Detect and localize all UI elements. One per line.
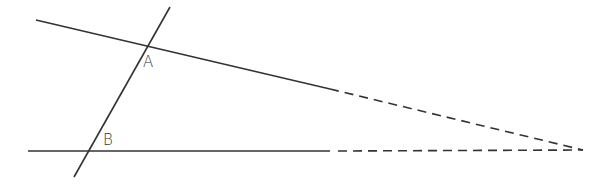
top-line-dashed-extension bbox=[330, 89, 583, 150]
bottom-line-dashed-extension bbox=[338, 150, 583, 151]
point-label-b: B bbox=[103, 131, 113, 149]
top-line-solid bbox=[36, 20, 330, 89]
diagram-canvas bbox=[0, 0, 616, 189]
point-label-a: A bbox=[143, 53, 153, 71]
